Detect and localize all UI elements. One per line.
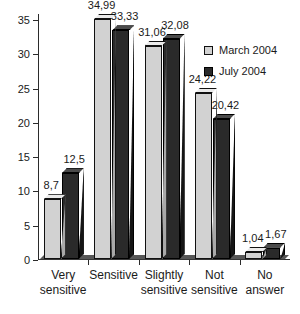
bar-value-label: 34,99 (88, 0, 116, 11)
x-tick (240, 260, 241, 265)
y-tick-label: 5 (24, 220, 30, 232)
legend-swatch-july (204, 67, 213, 76)
bar (245, 252, 262, 259)
legend-item-july[interactable]: July 2004 (204, 65, 277, 77)
x-axis-label-line: sensitive (20, 283, 106, 298)
y-axis-line (38, 14, 39, 260)
y-tick (33, 89, 38, 90)
bar-group: 31,0632,08 (145, 13, 185, 259)
y-tick-label: 30 (18, 48, 30, 60)
y-tick (33, 54, 38, 55)
y-tick-label: 35 (18, 14, 30, 26)
y-tick-label: 0 (24, 254, 30, 266)
bar-group: 8,712,5 (44, 13, 84, 259)
x-axis-label: Noanswer (222, 268, 300, 298)
bar (145, 46, 162, 259)
bar-face (94, 19, 111, 259)
y-tick (33, 123, 38, 124)
bar-top (112, 25, 134, 30)
bar-top (163, 34, 185, 39)
y-tick (33, 191, 38, 192)
y-tick (33, 20, 38, 21)
bar-value-label: 32,08 (161, 19, 189, 31)
y-tick-label: 25 (18, 83, 30, 95)
bar-value-label: 8,7 (44, 179, 59, 191)
legend-item-march[interactable]: March 2004 (204, 44, 277, 56)
bar-face (245, 252, 262, 259)
y-tick-label: 15 (18, 151, 30, 163)
bar-value-label: 12,5 (63, 153, 84, 165)
legend-label-july: July 2004 (219, 65, 266, 77)
bar-side (79, 168, 84, 259)
bar-value-label: 1,04 (242, 232, 263, 244)
bar-face (145, 46, 162, 259)
bar-top (195, 88, 217, 93)
x-axis-label-line: answer (222, 283, 300, 298)
y-tick (33, 260, 38, 261)
bar-chart: 05101520253035 8,712,534,9933,3331,0632,… (0, 0, 300, 314)
x-tick (189, 260, 190, 265)
y-tick (33, 226, 38, 227)
y-tick-label: 10 (18, 185, 30, 197)
bar-value-label: 1,67 (265, 228, 286, 240)
chart-legend: March 2004 July 2004 (204, 44, 277, 86)
x-tick (88, 260, 89, 265)
y-tick-label: 20 (18, 117, 30, 129)
bar (94, 19, 111, 259)
bar-value-label: 33,33 (111, 10, 139, 22)
legend-swatch-march (204, 46, 213, 55)
bar-top (62, 168, 84, 173)
bar-face (44, 199, 61, 259)
bar-side (180, 34, 185, 259)
bar (44, 199, 61, 259)
bar-group: 34,9933,33 (94, 13, 134, 259)
bar-top (263, 243, 285, 248)
bar-value-label: 20,42 (212, 99, 240, 111)
bar-side (129, 25, 134, 259)
bar-side (230, 114, 235, 259)
x-axis-label-line: No (222, 268, 300, 283)
y-tick (33, 157, 38, 158)
bar-face (195, 93, 212, 259)
x-tick (139, 260, 140, 265)
legend-label-march: March 2004 (219, 44, 277, 56)
bar (195, 93, 212, 259)
